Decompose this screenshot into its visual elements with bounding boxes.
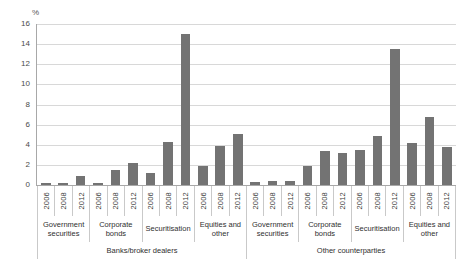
bar xyxy=(338,153,348,185)
bar xyxy=(181,34,191,185)
category-label: Securitisation xyxy=(143,216,195,242)
year-label-cell: 2006 xyxy=(352,186,369,216)
bar xyxy=(58,183,68,185)
year-label: 2008 xyxy=(164,192,173,210)
y-axis-tick-label: 16 xyxy=(0,20,30,28)
y-axis-tick-label: 8 xyxy=(0,101,30,109)
year-label-cell: 2012 xyxy=(334,186,351,216)
year-label-cell: 2008 xyxy=(369,186,386,216)
year-label: 2006 xyxy=(408,192,417,210)
bar-chart: % 0246810121416 200620082012200620082012… xyxy=(0,0,459,261)
year-label: 2006 xyxy=(199,192,208,210)
y-axis-tick-label: 10 xyxy=(0,80,30,88)
year-label-cell: 2008 xyxy=(212,186,229,216)
bar-slot xyxy=(37,24,54,185)
year-label-cell: 2006 xyxy=(404,186,421,216)
bar xyxy=(41,183,51,185)
year-label: 2006 xyxy=(251,192,260,210)
bar-slot xyxy=(264,24,281,185)
category-label: Corporate bonds xyxy=(299,216,351,242)
bar xyxy=(215,146,225,185)
year-label-cell: 2006 xyxy=(37,186,55,216)
category-label: Securitisation xyxy=(352,216,404,242)
bar-slot xyxy=(72,24,89,185)
year-label: 2008 xyxy=(111,192,120,210)
year-label: 2006 xyxy=(355,192,364,210)
y-axis-tick-label: 12 xyxy=(0,60,30,68)
bar xyxy=(146,173,156,185)
bar xyxy=(390,49,400,185)
year-label-cell: 2012 xyxy=(439,186,456,216)
bar-slot xyxy=(351,24,368,185)
bar xyxy=(111,170,121,185)
year-label-cell: 2008 xyxy=(317,186,334,216)
bar xyxy=(373,136,383,185)
year-label: 2012 xyxy=(442,192,451,210)
bar xyxy=(320,151,330,185)
bar-slot xyxy=(89,24,106,185)
bar xyxy=(407,143,417,185)
bar xyxy=(285,181,295,185)
year-label: 2012 xyxy=(286,192,295,210)
bar-slot xyxy=(54,24,71,185)
bar xyxy=(233,134,243,185)
bar xyxy=(198,166,208,185)
bar xyxy=(163,142,173,185)
bar-slot xyxy=(159,24,176,185)
category-labels-row: Government securitiesCorporate bondsSecu… xyxy=(37,216,456,242)
year-label: 2012 xyxy=(390,192,399,210)
bar-slot xyxy=(212,24,229,185)
year-label-cell: 2006 xyxy=(299,186,316,216)
year-label: 2012 xyxy=(338,192,347,210)
year-label: 2006 xyxy=(146,192,155,210)
year-label-cell: 2012 xyxy=(73,186,90,216)
bar-slot xyxy=(246,24,263,185)
bar xyxy=(76,176,86,185)
bar-slot xyxy=(124,24,141,185)
bar-slot xyxy=(299,24,316,185)
supergroup-labels-row: Banks/broker dealersOther counterparties xyxy=(37,242,456,259)
bar xyxy=(93,183,103,185)
year-label: 2012 xyxy=(181,192,190,210)
year-label: 2012 xyxy=(77,192,86,210)
year-label: 2006 xyxy=(94,192,103,210)
year-label-cell: 2008 xyxy=(264,186,281,216)
year-label: 2006 xyxy=(42,192,51,210)
year-label-cell: 2012 xyxy=(282,186,299,216)
year-label: 2012 xyxy=(233,192,242,210)
year-label-cell: 2012 xyxy=(386,186,403,216)
plot-area xyxy=(37,24,456,185)
y-axis-tick-label: 14 xyxy=(0,40,30,48)
bar-slot xyxy=(194,24,211,185)
year-label: 2008 xyxy=(373,192,382,210)
year-label-cell: 2008 xyxy=(108,186,125,216)
y-axis-tick-label: 2 xyxy=(0,161,30,169)
year-label-cell: 2012 xyxy=(125,186,142,216)
bar-slot xyxy=(281,24,298,185)
year-label-cell: 2008 xyxy=(55,186,72,216)
year-label-cell: 2006 xyxy=(247,186,264,216)
year-label-cell: 2012 xyxy=(230,186,247,216)
bar xyxy=(250,182,260,185)
year-label: 2008 xyxy=(320,192,329,210)
bar xyxy=(442,147,452,185)
year-labels-row: 2006200820122006200820122006200820122006… xyxy=(37,186,456,216)
bar-slot xyxy=(316,24,333,185)
category-label: Equities and other xyxy=(195,216,247,242)
y-axis-tick-label: 0 xyxy=(0,181,30,189)
bar-slot xyxy=(369,24,386,185)
y-axis-unit-label: % xyxy=(32,8,39,17)
supergroup-label: Other counterparties xyxy=(247,242,456,259)
bar-slot xyxy=(421,24,438,185)
category-label: Corporate bonds xyxy=(90,216,142,242)
bar-slot xyxy=(142,24,159,185)
year-label: 2008 xyxy=(216,192,225,210)
bar xyxy=(355,150,365,185)
bar xyxy=(268,181,278,185)
bar-slot xyxy=(438,24,455,185)
year-label-cell: 2008 xyxy=(421,186,438,216)
category-label: Government securities xyxy=(37,216,90,242)
year-label-cell: 2006 xyxy=(90,186,107,216)
year-label-cell: 2006 xyxy=(195,186,212,216)
year-label-cell: 2008 xyxy=(160,186,177,216)
